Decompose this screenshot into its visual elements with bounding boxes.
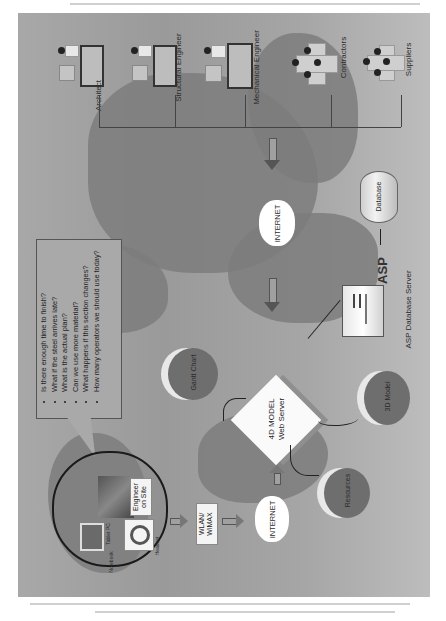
wlan-label-line1: WLAN/	[198, 504, 206, 544]
question-item: Can we use more material?	[71, 234, 82, 392]
architect-label: Architect	[94, 76, 103, 116]
web-server-label-line1: 4D MODEL	[267, 392, 277, 446]
asp-database-server-label: ASP Database Server	[404, 270, 413, 350]
contractors-group-icon	[288, 41, 343, 91]
question-item: What if the steel arrives late?	[50, 234, 61, 392]
tablet-pc-label: Tablet PC	[105, 520, 111, 548]
wlan-label-line2: WiMAX	[206, 504, 214, 544]
caption-text-line	[30, 603, 410, 605]
wlan-wimax-label: WLAN/ WiMAX	[198, 504, 214, 544]
web-server-label-line2: Web Server	[277, 392, 287, 446]
asp-logo-icon: ASP	[375, 255, 390, 287]
tablet-pc-icon	[80, 523, 104, 551]
stakeholder-bracket-tick	[245, 95, 246, 127]
stakeholder-bracket-line	[99, 127, 401, 128]
caption-text-line	[95, 611, 395, 613]
stakeholder-bracket-tick	[175, 95, 176, 127]
stakeholder-bracket-tick	[401, 95, 402, 127]
headset-label: Headset	[154, 533, 160, 559]
internet-bottom-label: INTERNET	[268, 495, 277, 545]
gantt-chart-label: Gantt Chart	[190, 348, 197, 398]
questions-list: Is there enough time to finish? What if …	[35, 234, 119, 412]
mechanical-engineer-label: Mechanical Engineer	[252, 26, 261, 110]
web-server-label: 4D MODEL Web Server	[267, 392, 287, 446]
stakeholder-bracket-tick	[331, 95, 332, 127]
database-server-icon	[342, 285, 384, 337]
arrow-to-gantt-icon	[223, 398, 246, 421]
mechanical-engineer-workstation-icon	[201, 31, 256, 91]
caption-text-line	[70, 3, 420, 5]
database-label: Database	[375, 175, 382, 219]
bidirectional-arrow-icon	[380, 229, 381, 245]
question-item: Is there enough time to finish?	[39, 234, 50, 392]
3d-model-label: 3D Model	[384, 372, 391, 422]
question-item: What is the actual plan?	[60, 234, 71, 392]
notebook-label: Notebook	[108, 547, 114, 577]
question-item: How many operators we should use today?	[92, 234, 103, 392]
resources-label: Resources	[344, 466, 351, 516]
suppliers-label: Suppliers	[404, 38, 413, 82]
headset-glyph-icon	[130, 525, 150, 545]
engineer-label-line2: on Site	[140, 479, 148, 515]
diagram-frame: Architect Structural Engineer Mechanical…	[18, 13, 430, 597]
engineer-label-line1: Engineer	[132, 479, 140, 515]
engineer-photo	[98, 476, 134, 518]
internet-top-label: INTERNET	[273, 199, 282, 249]
stakeholder-bracket-tick	[99, 95, 100, 127]
engineer-on-site-label: Engineer on Site	[132, 479, 148, 515]
question-item: What happens if this section changes?	[81, 234, 92, 392]
structural-engineer-workstation-icon	[128, 33, 178, 88]
arrow-to-3d-model-icon	[318, 413, 358, 426]
contractors-label: Contractors	[339, 33, 348, 83]
